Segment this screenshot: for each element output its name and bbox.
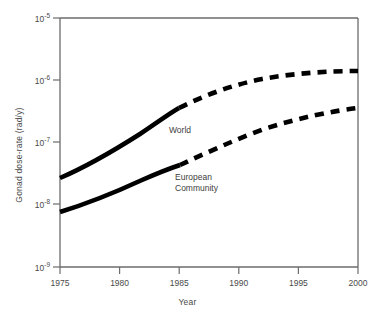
series-european-community	[60, 108, 358, 212]
x-tick-label-1990: 1990	[219, 278, 259, 288]
y-tick-label-1e-5: 10-5	[14, 12, 50, 24]
series-world	[60, 71, 358, 178]
y-axis-title: Gonad dose-rate (rad/y)	[14, 95, 24, 215]
series-label-european-community-line1: European	[175, 172, 218, 183]
chart-figure: 10-5 10-6 10-7 10-8 10-9 1975 1980 1985 …	[0, 0, 375, 320]
x-tick-label-1995: 1995	[278, 278, 318, 288]
y-tick-label-1e-9: 10-9	[14, 261, 50, 273]
chart-plot-area	[0, 0, 375, 320]
x-tick-marks	[60, 267, 358, 274]
series-world-dashed	[179, 71, 358, 108]
series-world-solid	[60, 108, 179, 178]
series-label-european-community-line2: Community	[175, 183, 218, 194]
x-tick-label-1975: 1975	[40, 278, 80, 288]
x-axis-title: Year	[0, 297, 375, 307]
x-tick-label-2000: 2000	[338, 278, 375, 288]
series-label-european-community: European Community	[175, 172, 218, 193]
axis-frame	[60, 18, 358, 267]
y-tick-label-1e-6: 10-6	[14, 74, 50, 86]
y-tick-marks	[53, 18, 60, 267]
series-label-world: World	[169, 125, 191, 136]
x-tick-label-1980: 1980	[100, 278, 140, 288]
series-european-community-dashed	[180, 108, 358, 165]
x-tick-label-1985: 1985	[159, 278, 199, 288]
